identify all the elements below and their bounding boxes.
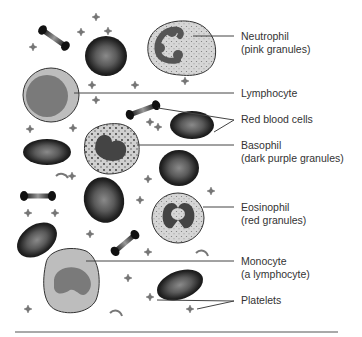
label-basophil: Basophil (dark purple granules) (241, 139, 344, 165)
platelet-curved (196, 251, 208, 256)
platelet-curved (110, 311, 122, 316)
label-platelets: Platelets (241, 294, 281, 307)
label-monocyte-title: Monocyte (241, 255, 310, 268)
basophil-cell (84, 124, 139, 174)
platelet-curved (56, 174, 68, 178)
label-eosinophil: Eosinophil (red granules) (241, 201, 306, 227)
label-neutrophil: Neutrophil (pink granules) (241, 30, 310, 56)
label-neutrophil-note: (pink granules) (241, 43, 310, 56)
blood-cells-diagram: Neutrophil (pink granules) Lymphocyte Re… (0, 0, 362, 337)
label-basophil-note: (dark purple granules) (241, 152, 344, 165)
label-basophil-title: Basophil (241, 139, 344, 152)
eosinophil-cell (152, 193, 204, 243)
label-monocyte-note: (a lymphocyte) (241, 268, 310, 281)
label-lymphocyte: Lymphocyte (241, 87, 297, 100)
label-red-blood-cells: Red blood cells (241, 113, 313, 126)
platelets-leader-line (157, 300, 234, 309)
label-neutrophil-title: Neutrophil (241, 30, 310, 43)
label-eosinophil-title: Eosinophil (241, 201, 306, 214)
monocyte-cell (44, 248, 99, 312)
neutrophil-cell (148, 21, 216, 76)
label-red-blood-cells-title: Red blood cells (241, 113, 313, 126)
label-eosinophil-note: (red granules) (241, 214, 306, 227)
label-platelets-title: Platelets (241, 294, 281, 307)
lymphocyte-cell (23, 68, 79, 122)
label-lymphocyte-title: Lymphocyte (241, 87, 297, 100)
label-monocyte: Monocyte (a lymphocyte) (241, 255, 310, 281)
